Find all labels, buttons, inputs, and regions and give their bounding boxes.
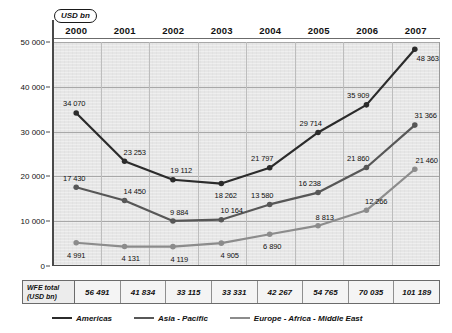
data-point-label: 31 366 [415, 111, 437, 120]
data-point-marker [315, 130, 321, 136]
year-label-2001: 2001 [101, 22, 150, 38]
data-point-label: 10 164 [221, 206, 243, 215]
data-point-marker [73, 240, 79, 246]
y-axis-ticks: 010 00020 00030 00040 00050 000 [0, 42, 50, 266]
y-tick-label: 30 000 [21, 127, 45, 136]
data-point-label: 48 363 [417, 54, 439, 63]
legend-label: Americas [76, 314, 112, 323]
data-point-marker [364, 102, 370, 108]
y-tick-mark [46, 266, 50, 267]
data-point-marker [170, 177, 176, 183]
plot-area: 34 07023 25319 11218 26221 79729 71435 9… [52, 42, 440, 266]
wfe-total-cell: 70 035 [349, 281, 395, 303]
wfe-total-cell: 33 331 [212, 281, 258, 303]
data-point-label: 4 905 [221, 251, 239, 260]
data-point-label: 13 580 [251, 191, 273, 200]
legend-label: Asia - Pacific [158, 314, 208, 323]
wfe-total-cell: 42 267 [258, 281, 304, 303]
y-tick-label: 20 000 [21, 172, 45, 181]
y-tick-label: 10 000 [21, 217, 45, 226]
data-point-marker [412, 167, 418, 173]
data-point-label: 19 112 [170, 166, 192, 175]
y-tick-mark [46, 176, 50, 177]
data-point-label: 4 991 [67, 250, 85, 259]
legend-item-2[interactable]: Europe - Africa - Middle East [230, 314, 363, 323]
data-point-marker [364, 165, 370, 171]
y-tick-mark [46, 131, 50, 132]
data-point-marker [315, 223, 321, 229]
data-point-label: 21 797 [251, 154, 273, 163]
legend-item-1[interactable]: Asia - Pacific [134, 314, 208, 323]
y-tick-mark [46, 221, 50, 222]
data-point-marker [122, 244, 128, 250]
year-label-2005: 2005 [295, 22, 344, 38]
wfe-total-cell: 56 491 [75, 281, 121, 303]
wfe-total-header: WFE total (USD bn) [23, 281, 75, 303]
chart-page: USD bn 20002001200220032004200520062007 … [0, 0, 452, 333]
wfe-total-table: WFE total (USD bn) 56 49141 83433 11533 … [22, 280, 440, 304]
data-point-label: 34 070 [63, 99, 85, 108]
data-point-label: 21 860 [347, 154, 369, 163]
y-tick-label: 0 [41, 262, 45, 271]
year-label-2004: 2004 [246, 22, 295, 38]
data-point-marker [219, 217, 225, 223]
chart-legend: AmericasAsia - PacificEurope - Africa - … [52, 311, 452, 325]
wfe-total-cell: 33 115 [166, 281, 212, 303]
wfe-total-cell: 41 834 [121, 281, 167, 303]
data-point-marker [267, 202, 273, 208]
legend-label: Europe - Africa - Middle East [254, 314, 363, 323]
y-tick-label: 50 000 [21, 38, 45, 47]
data-point-label: 29 714 [300, 118, 322, 127]
data-point-marker [73, 110, 79, 116]
data-point-marker [122, 198, 128, 204]
data-point-marker [412, 47, 418, 53]
wfe-total-cell: 54 765 [303, 281, 349, 303]
year-label-2003: 2003 [198, 22, 247, 38]
data-point-marker [73, 184, 79, 190]
data-point-label: 21 460 [416, 155, 438, 164]
data-point-marker [170, 244, 176, 250]
data-point-marker [267, 165, 273, 171]
wfe-total-cell: 101 189 [394, 281, 439, 303]
year-label-2006: 2006 [343, 22, 392, 38]
legend-item-0[interactable]: Americas [52, 314, 112, 323]
series-line-2 [76, 169, 415, 246]
legend-swatch-icon [52, 317, 72, 320]
series-lines [52, 42, 439, 265]
data-point-marker [412, 122, 418, 128]
data-point-marker [170, 218, 176, 224]
y-tick-label: 40 000 [21, 82, 45, 91]
data-point-label: 9 884 [170, 207, 188, 216]
wfe-total-header-line2: (USD bn) [27, 292, 57, 301]
data-point-label: 4 131 [122, 254, 140, 263]
year-label-2002: 2002 [149, 22, 198, 38]
data-point-marker [364, 208, 370, 214]
y-tick-mark [46, 42, 50, 43]
data-point-marker [267, 231, 273, 237]
data-point-label: 23 253 [124, 147, 146, 156]
data-point-label: 8 813 [316, 212, 334, 221]
data-point-marker [219, 181, 225, 187]
series-line-0 [76, 49, 415, 183]
unit-badge: USD bn [54, 9, 97, 23]
series-line-1 [76, 125, 415, 221]
data-point-marker [122, 159, 128, 165]
y-axis-line [52, 20, 54, 266]
data-point-label: 16 238 [299, 179, 321, 188]
data-point-marker [219, 240, 225, 246]
y-tick-mark [46, 86, 50, 87]
data-point-marker [315, 190, 321, 196]
data-point-label: 14 450 [124, 187, 146, 196]
legend-swatch-icon [134, 317, 154, 320]
year-axis-header: 20002001200220032004200520062007 [52, 22, 440, 39]
data-point-label: 4 119 [170, 254, 188, 263]
wfe-total-values: 56 49141 83433 11533 33142 26754 76570 0… [75, 281, 439, 303]
data-point-label: 6 890 [263, 242, 281, 251]
wfe-total-header-line1: WFE total [27, 283, 59, 292]
legend-swatch-icon [230, 317, 250, 320]
data-point-label: 17 430 [63, 173, 85, 182]
year-label-2007: 2007 [392, 22, 441, 38]
data-point-label: 12 266 [365, 197, 387, 206]
year-label-2000: 2000 [52, 22, 101, 38]
data-point-label: 35 909 [347, 91, 369, 100]
